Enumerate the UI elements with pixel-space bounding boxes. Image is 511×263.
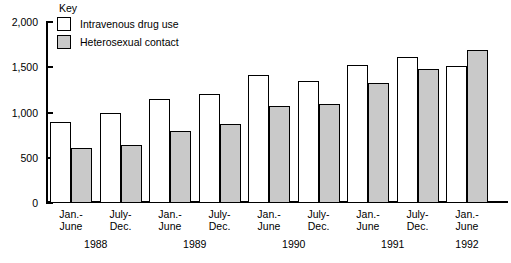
y-tick-label: 2,000	[0, 17, 38, 27]
bar	[347, 65, 368, 203]
bar	[397, 57, 418, 203]
bar-group	[298, 22, 340, 203]
bar	[149, 99, 170, 203]
bar	[319, 104, 340, 203]
bar	[100, 113, 121, 203]
legend-swatch-gray	[57, 35, 71, 49]
legend-item-intravenous-drug-use: Intravenous drug use	[57, 17, 179, 31]
chart-legend: Key Intravenous drug use Heterosexual co…	[57, 2, 179, 53]
y-tick-label: 500	[0, 153, 38, 163]
bar	[71, 148, 92, 203]
x-period-label-line1: Jan.-	[437, 208, 497, 220]
legend-swatch-white	[57, 17, 71, 31]
x-period-label: Jan.-June	[437, 208, 497, 232]
bar	[248, 75, 269, 204]
bar-group	[347, 22, 389, 203]
x-year-label: 1988	[66, 238, 126, 250]
x-period-label-line2: June	[437, 220, 497, 232]
bar	[368, 83, 389, 203]
x-year-label: 1991	[363, 238, 423, 250]
bar	[170, 131, 191, 203]
legend-title: Key	[59, 2, 179, 14]
x-year-label: 1992	[437, 238, 497, 250]
bar	[199, 94, 220, 203]
bar	[220, 124, 241, 203]
bar	[269, 106, 290, 203]
legend-label-intravenous-drug-use: Intravenous drug use	[80, 18, 179, 30]
legend-item-heterosexual-contact: Heterosexual contact	[57, 35, 179, 49]
x-year-label: 1990	[264, 238, 324, 250]
bar	[418, 69, 439, 203]
bar-group	[248, 22, 290, 203]
y-tick-label: 1,500	[0, 62, 38, 72]
bar-group	[446, 22, 488, 203]
legend-label-heterosexual-contact: Heterosexual contact	[80, 36, 179, 48]
bar-group	[397, 22, 439, 203]
bar	[50, 122, 71, 203]
x-year-label: 1989	[165, 238, 225, 250]
bar	[446, 66, 467, 203]
y-tick-label: 1,000	[0, 108, 38, 118]
bar-chart: 05001,0001,5002,000 Key Intravenous drug…	[0, 0, 511, 263]
bar-group	[199, 22, 241, 203]
bar	[298, 81, 319, 203]
bar	[121, 145, 142, 203]
y-tick-label: 0	[0, 198, 38, 208]
bar	[467, 50, 488, 203]
